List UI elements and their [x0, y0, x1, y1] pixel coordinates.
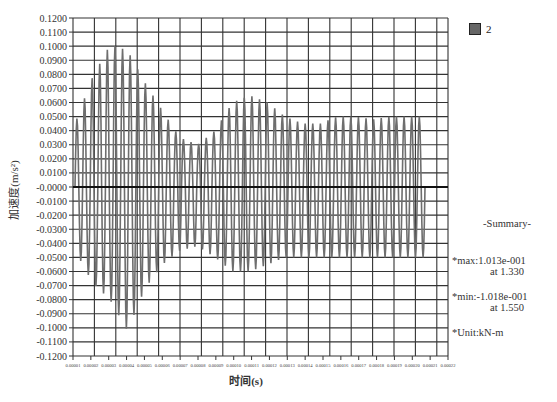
x-tick-label: 0.00013 — [280, 363, 296, 368]
legend-label: 2 — [486, 23, 492, 35]
x-tick-label: 0.00014 — [298, 363, 314, 368]
y-tick-label: -0.0800 — [36, 294, 67, 305]
summary-panel: -Summary- *max:1.013e-001 at 1.330 *min:… — [452, 218, 557, 352]
legend: 2 — [469, 23, 492, 35]
x-tick-label: 0.00009 — [208, 363, 224, 368]
x-tick-label: 0.00002 — [83, 363, 99, 368]
summary-min-at: at 1.550 — [452, 302, 557, 313]
x-tick-label: 0.00021 — [423, 363, 439, 368]
x-tick-label: 0.00016 — [333, 363, 349, 368]
y-tick-label: -0.1200 — [36, 351, 67, 362]
x-tick-label: 0.00017 — [351, 363, 367, 368]
y-tick-label: -0.0900 — [36, 308, 67, 319]
summary-max-value: *max:1.013e-001 — [452, 255, 557, 266]
y-tick-label: -0.0500 — [36, 252, 67, 263]
y-tick-label: -0.1000 — [36, 322, 67, 333]
y-tick-label: 0.1000 — [40, 41, 68, 52]
summary-min: *min:-1.018e-001 at 1.550 — [452, 291, 557, 313]
x-tick-label: 0.00004 — [119, 363, 135, 368]
y-tick-label: 0.0500 — [40, 111, 68, 122]
x-tick-label: 0.00008 — [191, 363, 207, 368]
x-tick-label: 0.00001 — [66, 363, 82, 368]
y-tick-label: 0.0800 — [40, 69, 68, 80]
y-tick-label: 0.1100 — [40, 27, 67, 38]
y-tick-label: 0.0200 — [40, 153, 68, 164]
y-tick-label: 0.0700 — [40, 83, 68, 94]
y-axis-ticks: 0.12000.11000.10000.09000.08000.07000.06… — [36, 13, 67, 362]
summary-min-value: *min:-1.018e-001 — [452, 291, 557, 302]
x-tick-label: 0.00020 — [405, 363, 421, 368]
x-tick-label: 0.00019 — [387, 363, 403, 368]
x-tick-label: 0.00005 — [137, 363, 153, 368]
summary-max: *max:1.013e-001 at 1.330 — [452, 255, 557, 277]
x-tick-label: 0.00010 — [226, 363, 242, 368]
legend-swatch-icon — [469, 23, 481, 35]
y-tick-label: -0.0000 — [36, 182, 67, 193]
x-tick-label: 0.00006 — [155, 363, 171, 368]
y-tick-label: -0.1100 — [37, 336, 67, 347]
summary-max-at: at 1.330 — [452, 266, 557, 277]
x-tick-label: 0.00018 — [369, 363, 385, 368]
y-tick-label: 0.0900 — [40, 55, 68, 66]
x-tick-label: 0.00022 — [441, 363, 457, 368]
y-axis-title: 加速度(m/s²) — [7, 160, 21, 220]
x-tick-label: 0.00003 — [101, 363, 117, 368]
y-tick-label: -0.0700 — [36, 280, 67, 291]
y-tick-label: -0.0400 — [36, 238, 67, 249]
y-tick-label: -0.0100 — [36, 196, 67, 207]
y-tick-label: -0.0300 — [36, 224, 67, 235]
x-tick-label: 0.00015 — [316, 363, 332, 368]
x-tick-label: 0.00012 — [262, 363, 278, 368]
summary-title: -Summary- — [452, 218, 557, 229]
y-tick-label: -0.0600 — [36, 266, 67, 277]
y-tick-label: 0.0400 — [40, 125, 68, 136]
y-tick-label: 0.1200 — [40, 13, 68, 24]
y-tick-label: 0.0100 — [40, 167, 68, 178]
x-tick-label: 0.00011 — [244, 363, 259, 368]
y-tick-label: 0.0300 — [40, 139, 68, 150]
x-axis-ticks: 0.000010.000020.000030.000040.000050.000… — [66, 363, 457, 368]
y-tick-label: -0.0200 — [36, 210, 67, 221]
summary-unit: *Unit:kN-m — [452, 327, 557, 338]
x-axis-title: 时间(s) — [229, 374, 263, 388]
y-tick-label: 0.0600 — [40, 97, 68, 108]
x-tick-label: 0.00007 — [173, 363, 189, 368]
